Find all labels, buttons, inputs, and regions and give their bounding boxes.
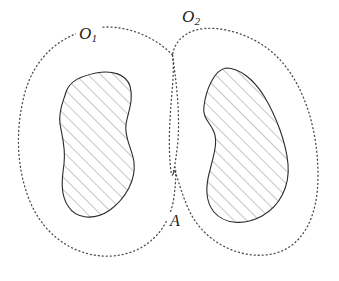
label-point-a-base: A <box>170 212 180 229</box>
topology-figure: O1 O2 A <box>0 0 339 281</box>
label-open-set-1-base: O <box>79 24 91 43</box>
label-open-set-2: O2 <box>182 8 200 27</box>
label-open-set-1-subscript: 1 <box>92 32 98 44</box>
label-open-set-2-subscript: 2 <box>195 15 201 27</box>
label-point-a: A <box>170 213 180 229</box>
figure-canvas <box>0 0 339 281</box>
label-open-set-2-base: O <box>182 7 194 26</box>
label-open-set-1: O1 <box>79 25 97 44</box>
